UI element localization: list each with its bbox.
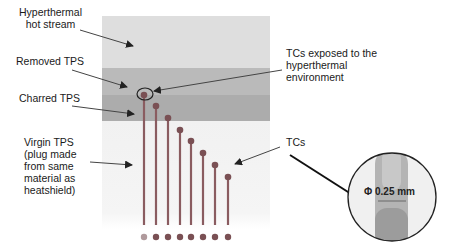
label-virgin-tps: Virgin TPS (plug made from same material… [24, 136, 77, 196]
magnified-tc-inset [348, 150, 436, 250]
label-virgin-line4: material as [24, 172, 77, 184]
label-diameter: Φ 0.25 mm [364, 186, 415, 198]
hot-stream-layer [102, 16, 270, 68]
label-hot-stream-line1: Hyperthermal [19, 6, 82, 18]
label-hot-stream-line2: hot stream [19, 18, 82, 30]
virgin-tps-layer [102, 121, 270, 229]
label-tcs: TCs [286, 136, 305, 148]
label-virgin-line2: (plug made [24, 148, 77, 160]
label-exposed-line1: TCs exposed to the [286, 47, 377, 59]
removed-tps-layer [102, 68, 270, 95]
tps-block [102, 16, 270, 229]
label-virgin-line1: Virgin TPS [24, 136, 77, 148]
label-virgin-line5: heatshield) [24, 184, 77, 196]
label-charred-tps: Charred TPS [19, 92, 80, 104]
label-exposed-line3: environment [286, 71, 377, 83]
diagram-canvas [0, 0, 453, 250]
label-virgin-line3: from same [24, 160, 77, 172]
label-hot-stream: Hyperthermal hot stream [19, 6, 82, 30]
label-removed-tps: Removed TPS [16, 55, 84, 67]
label-exposed-line2: hyperthermal [286, 59, 377, 71]
charred-tps-layer [102, 95, 270, 121]
label-exposed-tcs: TCs exposed to the hyperthermal environm… [286, 47, 377, 83]
